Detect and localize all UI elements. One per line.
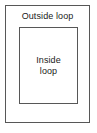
inside-loop-label-line-2: loop bbox=[40, 66, 57, 77]
inside-loop-label: Inside loop bbox=[20, 28, 77, 103]
inside-loop-label-line-1: Inside bbox=[36, 55, 61, 66]
diagram-canvas: Outside loop Inside loop bbox=[0, 0, 97, 133]
inside-loop-rectangle: Inside loop bbox=[19, 27, 78, 104]
outside-loop-rectangle: Outside loop Inside loop bbox=[5, 5, 90, 123]
outside-loop-label: Outside loop bbox=[6, 11, 89, 22]
